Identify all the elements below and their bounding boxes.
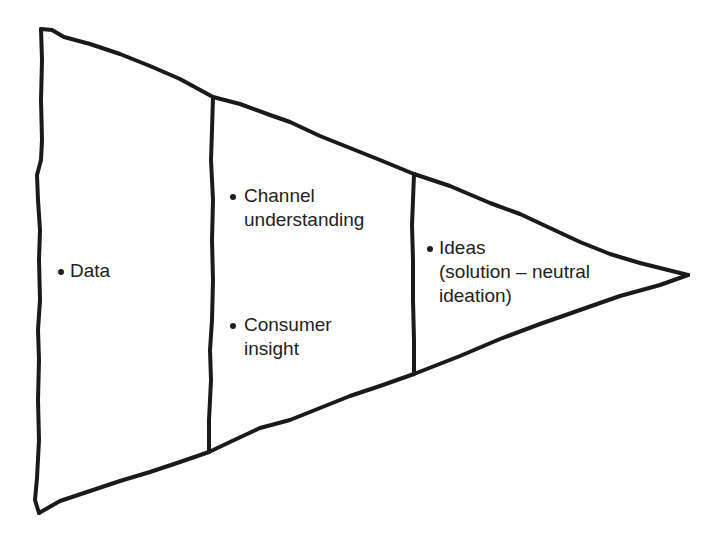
item-line: ideation) xyxy=(439,284,590,308)
stage-3-item-ideas: Ideas (solution – neutral ideation) xyxy=(427,236,590,308)
item-line: (solution – neutral xyxy=(439,260,590,284)
item-line: understanding xyxy=(244,208,364,232)
bullet-icon xyxy=(230,323,236,329)
funnel-left-edge xyxy=(35,29,42,513)
item-line: Channel xyxy=(244,184,364,208)
bullet-icon xyxy=(230,194,236,200)
stage-2-item-channel-understanding: Channel understanding xyxy=(230,184,364,232)
bullet-icon xyxy=(427,246,433,252)
stage-2-item-consumer-insight: Consumer insight xyxy=(230,313,332,361)
bullet-icon xyxy=(58,269,64,275)
item-line: insight xyxy=(244,337,332,361)
funnel-top-edge xyxy=(41,29,688,275)
item-line: Consumer xyxy=(244,313,332,337)
item-line: Ideas xyxy=(439,236,590,260)
stage-divider-2 xyxy=(412,174,414,374)
funnel-bottom-edge xyxy=(39,275,688,513)
item-line: Data xyxy=(70,259,110,283)
stage-1-item-data: Data xyxy=(58,259,110,283)
stage-divider-1 xyxy=(209,97,213,452)
